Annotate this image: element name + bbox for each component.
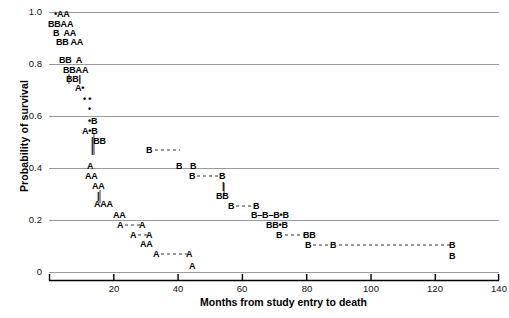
x-tick-label-140: 140 [484,283,509,294]
data-marker-row-b15: B [330,241,336,250]
data-marker-row-b11: BB•B [266,221,288,230]
x-axis [49,274,499,281]
y-axis-title: Probability of survival [18,26,30,246]
gridlines [49,13,499,273]
x-tick-label-60: 60 [227,283,257,294]
data-marker-row-15: A [87,162,93,171]
data-marker-row-21: A [117,221,123,230]
data-marker-row-b7: BB [216,192,229,201]
x-tick-label-80: 80 [292,283,322,294]
x-axis-title: Months from study entry to death [0,296,509,308]
data-marker-row-b14: B [305,241,311,250]
data-marker-row-b6: | [222,182,224,191]
data-marker-row-8: A• [75,84,84,93]
y-tick-label-1: 1.0 [8,6,42,17]
x-tick-label-100: 100 [356,283,386,294]
data-marker-row-20: AA [113,211,126,220]
survival-chart: 1.0 0.8 0.6 0.4 0.2 0 20 40 60 80 100 12… [0,0,509,318]
data-marker-row-11: •B [88,117,97,126]
data-marker-row-b10: B–B–B•B [251,211,289,220]
step-connectors [125,150,450,254]
data-marker-row-b4: B [189,172,195,181]
data-marker-row-b8: B [228,202,234,211]
data-marker-row-25: AA [140,240,153,249]
x-axis-title-text: Months from study entry to death [200,296,367,308]
y-tick-label-6: 0 [8,266,42,277]
data-marker-row-26: A [153,250,159,259]
data-marker-row-16: AA [85,172,98,181]
data-marker-row-5: BB A [59,56,82,65]
data-marker-row-19: AAA [94,200,113,209]
data-marker-row-28: A [189,262,195,271]
data-marker-row-b17: B [449,252,455,261]
data-marker-row-b5: B [219,172,225,181]
data-marker-row-27: A [186,250,192,259]
data-marker-row-4: BB AA [56,38,83,47]
data-marker-row-9: • • [83,95,91,104]
data-marker-row-b13: BB [303,231,316,240]
data-marker-row-14: | [91,146,93,155]
data-marker-row-1: •AA [54,10,70,19]
x-tick-label-120: 120 [420,283,450,294]
data-marker-row-10: • [88,105,91,114]
data-marker-row-b2: B [176,162,182,171]
data-marker-row-22: A [139,221,145,230]
x-tick-label-40: 40 [163,283,193,294]
data-marker-row-12: A•B [82,127,98,136]
x-tick-label-20: 20 [99,283,129,294]
data-marker-row-b3: B [190,162,196,171]
data-marker-row-b1: B [146,146,152,155]
data-marker-row-13: |BB [91,137,106,146]
chart-canvas [0,0,509,318]
data-marker-row-23: A [130,231,136,240]
data-marker-row-17: AA [92,182,105,191]
data-marker-row-b16: B [449,241,455,250]
data-marker-row-b12: B [276,231,282,240]
